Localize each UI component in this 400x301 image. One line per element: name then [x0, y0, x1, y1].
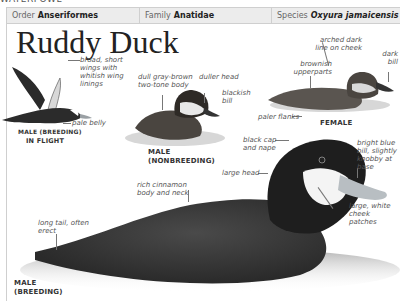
leader-line [275, 140, 289, 141]
note-blackish-bill: blackish bill [222, 89, 252, 105]
note-duller-head: duller head [199, 73, 239, 81]
leader-line [63, 123, 71, 124]
note-wings: broad, short wings with whitish wing lin… [80, 56, 142, 88]
leader-line [310, 76, 311, 88]
caption-breeding-line1: MALE [14, 279, 36, 288]
note-pale-belly: pale belly [72, 119, 106, 127]
note-long-tail: long tail, often erect [38, 219, 90, 235]
note-dark-bill: dark bill [376, 50, 398, 66]
note-gray-brown-body: dull gray-brown two-tone body [138, 73, 196, 89]
note-paler-flanks: paler flanks [258, 113, 299, 121]
note-white-cheek: large, white cheek patches [349, 202, 395, 226]
leader-line [56, 234, 57, 250]
note-large-head: large head [222, 169, 260, 177]
leader-line [68, 60, 80, 61]
note-cinnamon-body: rich cinnamon body and neck [137, 181, 189, 197]
caption-nonbreeding-line1: MALE [148, 148, 170, 157]
caption-nonbreeding-line2: (NONBREEDING) [148, 157, 215, 166]
leader-line [388, 72, 389, 82]
leader-line [162, 95, 163, 110]
caption-breeding-line2: (BREEDING) [14, 288, 63, 297]
note-black-cap: black cap and nape [243, 136, 277, 152]
caption-flight-line1: MALE (BREEDING) [18, 127, 82, 136]
leader-line [204, 93, 205, 103]
caption-flight-line2: IN FLIGHT [26, 137, 64, 146]
caption-female: FEMALE [320, 119, 352, 128]
note-brownish-upperparts: brownish upperparts [288, 60, 332, 76]
note-arched-line: arched dark line on cheek [312, 36, 362, 52]
note-bright-blue-bill: bright blue bill, slightly knobby at bas… [357, 139, 399, 171]
